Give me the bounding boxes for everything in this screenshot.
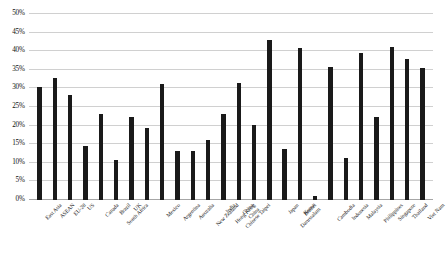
bar-slot (231, 14, 246, 200)
bar-slot (338, 14, 353, 200)
bar[interactable] (129, 117, 133, 200)
bar[interactable] (374, 117, 378, 200)
x-label-slot: New Zealand (200, 201, 215, 267)
bar-slot (323, 14, 338, 200)
bar-slot (216, 14, 231, 200)
x-label-slot: Thailand (400, 201, 415, 267)
bar-slot (185, 14, 200, 200)
bar[interactable] (145, 128, 149, 200)
x-label-slot: East Asia (32, 201, 47, 267)
bar[interactable] (68, 95, 72, 200)
bar[interactable] (83, 146, 87, 200)
bar[interactable] (221, 114, 225, 200)
bar-slot (200, 14, 215, 200)
x-label-slot: Philippines (369, 201, 384, 267)
bar-slot (400, 14, 415, 200)
x-label-slot: Brunei Darussalam (308, 201, 323, 267)
x-label-slot: Viet Nam (415, 201, 430, 267)
x-label-slot: Chinese Taipei (262, 201, 277, 267)
bar-slot (415, 14, 430, 200)
bar-slot (384, 14, 399, 200)
y-axis-tick-label: 30% (12, 83, 25, 91)
bar-slot (170, 14, 185, 200)
bar[interactable] (252, 125, 256, 200)
bar-slot (32, 14, 47, 200)
bar[interactable] (237, 83, 241, 200)
bar[interactable] (313, 196, 317, 200)
x-label-slot: Cambodia (323, 201, 338, 267)
y-axis-tick-label: 5% (16, 176, 25, 184)
bar[interactable] (114, 160, 118, 200)
bar-slot (277, 14, 292, 200)
bar[interactable] (390, 47, 394, 200)
y-axis-tick-label: 0% (16, 195, 25, 203)
x-label-slot: Australia (185, 201, 200, 267)
bar-slot (63, 14, 78, 200)
x-label-slot: Canada (93, 201, 108, 267)
bar[interactable] (282, 149, 286, 200)
bar-slot (47, 14, 62, 200)
y-axis-tick-label: 25% (12, 102, 25, 110)
bar-slot (93, 14, 108, 200)
bar-slot (139, 14, 154, 200)
plot-area: 0%5%10%15%20%25%30%35%40%45%50% (29, 14, 433, 200)
bar-slot (155, 14, 170, 200)
bar-slot (78, 14, 93, 200)
x-label-slot: US (78, 201, 93, 267)
bar-slot (109, 14, 124, 200)
bar-slot (354, 14, 369, 200)
bar[interactable] (53, 78, 57, 200)
bar[interactable] (344, 158, 348, 200)
x-label-slot: Singapore (384, 201, 399, 267)
bar[interactable] (267, 40, 271, 200)
bar[interactable] (328, 67, 332, 200)
y-axis-tick-label: 10% (12, 158, 25, 166)
bar[interactable] (191, 151, 195, 200)
bar[interactable] (175, 151, 179, 200)
y-axis-tick-label: 35% (12, 65, 25, 73)
bar[interactable] (359, 53, 363, 200)
x-label-slot: Malaysia (354, 201, 369, 267)
y-axis-tick-label: 50% (12, 9, 25, 17)
bar-slot (369, 14, 384, 200)
bar-slot (124, 14, 139, 200)
x-label-slot: South Africa (139, 201, 154, 267)
bar[interactable] (99, 114, 103, 200)
y-axis-tick-label: 40% (12, 46, 25, 54)
bar[interactable] (298, 48, 302, 200)
bar-series (29, 14, 433, 200)
x-axis-labels: East AsiaASEANEU-28USCanadaBrazilUKSouth… (29, 201, 433, 267)
x-label-slot: Indonesia (338, 201, 353, 267)
bar[interactable] (420, 68, 424, 200)
bar-slot (262, 14, 277, 200)
bar[interactable] (206, 140, 210, 200)
x-label-slot: EU-28 (63, 201, 78, 267)
x-label-slot: Argentina (170, 201, 185, 267)
bar-slot (246, 14, 261, 200)
bar[interactable] (160, 84, 164, 200)
x-axis-tick-label: Viet Nam (427, 202, 446, 221)
x-label-slot: Mexico (155, 201, 170, 267)
y-axis-tick-label: 15% (12, 139, 25, 147)
bar[interactable] (37, 87, 41, 200)
y-axis-tick-label: 45% (12, 28, 25, 36)
x-label-slot: ASEAN (47, 201, 62, 267)
bar[interactable] (405, 59, 409, 200)
y-axis-tick-label: 20% (12, 121, 25, 129)
bar-slot (292, 14, 307, 200)
bar-slot (308, 14, 323, 200)
